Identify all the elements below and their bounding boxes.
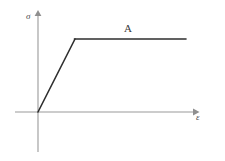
region-a-label: A: [124, 23, 132, 34]
y-axis-label-sigma: σ: [26, 12, 30, 21]
elastic-segment: [38, 39, 75, 112]
x-axis-label-epsilon: ε: [196, 113, 200, 122]
stress-strain-figure: σ ε A: [0, 0, 225, 161]
plot-canvas: [0, 0, 225, 161]
y-axis-arrowhead: [35, 10, 42, 16]
